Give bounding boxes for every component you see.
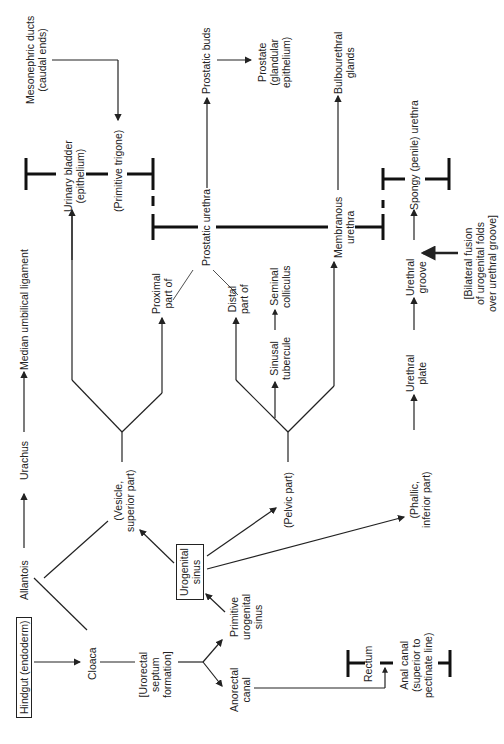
node-urinary-bladder: Urinary bladder(epithelium) [62,140,86,212]
node-primitive-ug-sinus: Primitiveurogenitalsinus [228,594,264,640]
node-anal-canal: Anal canal(superior topectinate line) [398,633,434,698]
node-allantois: Allantois [18,560,30,600]
node-seminal-colliculus: Seminalcolliculus [268,265,292,308]
node-prostate: Prostate(glandularepithelium) [256,37,292,88]
node-pelvic: (Pelvic part) [282,472,294,528]
node-vesicle: (Vesicle,superior part) [112,470,136,532]
node-rectum: Rectum [362,646,374,682]
node-phallic: (Phallic,inferior part) [408,471,432,528]
node-mesonephric: Mesonephric ducts(caudal ends) [24,16,48,104]
node-bilateral-fusion: [Bilateral fusionof urogenital foldsover… [462,215,498,312]
node-urachus: Urachus [18,441,30,480]
node-primitive-trigone: (Primitive trigone) [112,130,124,212]
node-membranous-urethra: Membranousurethra [332,197,356,258]
node-cloaca: Cloaca [86,647,98,680]
node-urethral-groove: Urethralgroove [404,259,428,296]
node-prostatic-urethra: Prostatic urethra [200,189,212,266]
node-sinusal-tubercule: Sinusaltubercule [268,337,292,380]
node-bulbourethral: Bulbourethralglands [332,32,356,94]
node-spongy-urethra: Spongy (penile) urethra [408,100,420,210]
node-urethral-plate: Urethralplate [404,355,428,392]
node-hindgut: Hindgut (endoderm) [16,617,32,718]
node-proximal-part: Proximalpart of [150,273,174,314]
node-urorectal: [Urorectalseptumformation] [137,651,173,698]
node-anorectal-canal: Anorectalcanal [228,668,252,712]
node-ug-sinus: Urogenitalsinus [176,544,204,600]
node-distal-part: Distalpart of [226,284,250,314]
node-prostatic-buds: Prostatic buds [200,27,212,94]
node-median-umbilical: Median umbilical ligament [18,249,30,370]
